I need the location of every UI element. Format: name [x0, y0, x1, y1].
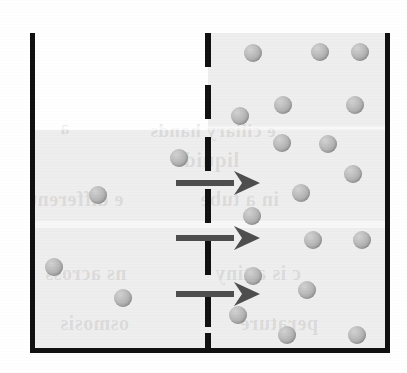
membrane-dash: [205, 33, 211, 67]
solute-particle: [244, 44, 262, 62]
water-flow-arrow: [176, 226, 260, 250]
solute-particle: [311, 43, 329, 61]
solute-particle: [243, 207, 261, 225]
solute-particle: [274, 96, 292, 114]
membrane-dash: [205, 137, 211, 171]
solute-particle: [278, 326, 296, 344]
osmosis-diagram: e ciliary handsliquidsae differentin a t…: [0, 0, 407, 373]
arrow-head-notch: [234, 226, 242, 250]
solute-particle: [170, 149, 188, 167]
solute-particle: [344, 165, 362, 183]
solute-particle: [346, 96, 364, 114]
solute-particle: [89, 186, 107, 204]
solute-particle: [114, 289, 132, 307]
solute-particle: [292, 184, 310, 202]
arrow-shaft: [176, 235, 234, 241]
solute-particle: [348, 326, 366, 344]
solute-particle: [304, 231, 322, 249]
solute-particle: [319, 135, 337, 153]
arrow-head-notch: [234, 171, 242, 195]
water-flow-arrow: [176, 282, 260, 306]
solute-particle: [45, 258, 63, 276]
solute-particle: [298, 281, 316, 299]
beaker-left-wall: [30, 33, 35, 353]
membrane-dash: [205, 333, 211, 353]
solute-particle: [273, 134, 291, 152]
arrow-shaft: [176, 180, 234, 186]
beaker-right-wall: [385, 33, 390, 353]
membrane-dash: [205, 85, 211, 119]
solute-particle: [231, 107, 249, 125]
arrow-shaft: [176, 291, 234, 297]
water-flow-arrow: [176, 171, 260, 195]
solute-particle: [351, 43, 369, 61]
solute-particle: [353, 231, 371, 249]
solute-particle: [229, 306, 247, 324]
arrow-head-notch: [234, 282, 242, 306]
